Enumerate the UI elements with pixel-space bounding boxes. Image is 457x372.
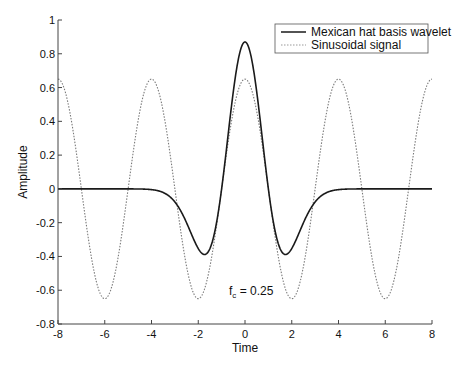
y-tick-label: -0.6 [36, 284, 55, 296]
legend: Mexican hat basis wavelet Sinusoidal sig… [275, 24, 452, 53]
x-tick-label: 4 [335, 328, 341, 340]
y-tick-label: 0.6 [40, 82, 55, 94]
x-tick-label: -6 [100, 328, 110, 340]
x-tick-label: 6 [382, 328, 388, 340]
x-tick-label: 8 [429, 328, 435, 340]
x-tick-label: 0 [242, 328, 248, 340]
frequency-annotation: fc = 0.25 [229, 284, 274, 300]
y-tick-label: -0.4 [36, 250, 55, 262]
annotation-value: = 0.25 [236, 284, 273, 298]
x-tick-label: 2 [289, 328, 295, 340]
y-axis-label: Amplitude [16, 145, 30, 199]
x-axis-label: Time [232, 341, 259, 355]
y-tick-label: 1 [49, 14, 55, 26]
y-tick-label: 0.8 [40, 48, 55, 60]
mexican-hat-wavelet-line [58, 42, 432, 254]
legend-label-sine: Sinusoidal signal [311, 38, 401, 52]
axes: -8-6-4-202468 -0.8-0.6-0.4-0.200.20.40.6… [16, 14, 435, 355]
y-tick-label: 0 [49, 183, 55, 195]
x-ticks: -8-6-4-202468 [53, 320, 435, 340]
y-tick-label: 0.4 [40, 115, 55, 127]
x-tick-label: -4 [147, 328, 157, 340]
chart: -8-6-4-202468 -0.8-0.6-0.4-0.200.20.40.6… [0, 0, 457, 372]
legend-label-wavelet: Mexican hat basis wavelet [311, 25, 452, 39]
y-tick-label: -0.8 [36, 318, 55, 330]
curves [58, 42, 432, 299]
y-tick-label: -0.2 [36, 217, 55, 229]
x-tick-label: -2 [193, 328, 203, 340]
y-tick-label: 0.2 [40, 149, 55, 161]
